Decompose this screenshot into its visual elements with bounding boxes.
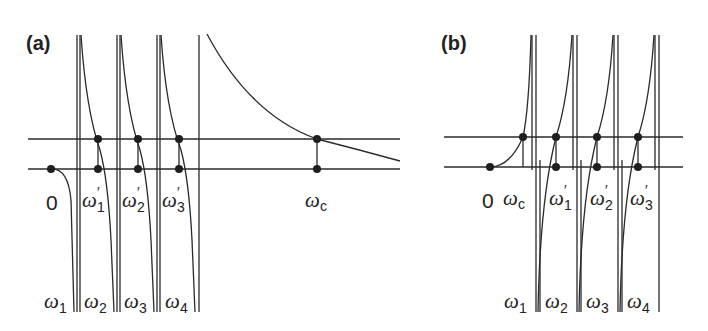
- dispersion-curves: [51, 34, 400, 312]
- svg-text:1: 1: [519, 300, 527, 316]
- pole-label-4: ω4: [165, 289, 188, 316]
- svg-text:ω: ω: [84, 289, 99, 313]
- intersection-label-2: ω′2: [590, 182, 613, 213]
- panel-b-label: (b): [441, 32, 467, 54]
- dispersion-curves: [490, 35, 654, 312]
- svg-text:c: c: [320, 198, 327, 214]
- svg-text:4: 4: [642, 300, 650, 316]
- intersection-label-3: ω′3: [162, 184, 185, 215]
- diagram-canvas: (a): [0, 0, 708, 331]
- svg-text:1: 1: [97, 199, 105, 215]
- pole-label-4: ω4: [627, 289, 650, 316]
- asymptote-lines: [532, 35, 659, 312]
- svg-text:1: 1: [59, 300, 67, 316]
- svg-text:c: c: [518, 196, 525, 212]
- svg-text:4: 4: [180, 300, 188, 316]
- svg-text:3: 3: [139, 300, 147, 316]
- intersection-label-c: ωc: [305, 188, 327, 214]
- svg-text:ω: ω: [122, 188, 137, 212]
- origin-label: 0: [482, 189, 494, 212]
- panel-a-label: (a): [26, 32, 50, 54]
- svg-text:3: 3: [645, 197, 653, 213]
- pole-label-2: ω2: [84, 289, 107, 316]
- svg-text:1: 1: [564, 197, 572, 213]
- intersection-label-c: ωc: [503, 186, 525, 212]
- svg-text:′: ′: [564, 182, 567, 198]
- pole-label-1: ω1: [504, 289, 527, 316]
- pole-label-3: ω3: [124, 289, 147, 316]
- svg-text:ω: ω: [162, 188, 177, 212]
- svg-text:ω: ω: [627, 289, 642, 313]
- svg-text:3: 3: [177, 199, 185, 215]
- svg-text:ω: ω: [305, 188, 320, 212]
- svg-text:ω: ω: [504, 289, 519, 313]
- svg-text:′: ′: [97, 184, 100, 200]
- svg-text:ω: ω: [630, 186, 645, 210]
- intersection-label-2: ω′2: [122, 184, 145, 215]
- svg-text:3: 3: [601, 300, 609, 316]
- svg-text:ω: ω: [549, 186, 564, 210]
- svg-text:ω: ω: [124, 289, 139, 313]
- panel-a: (a): [26, 32, 400, 316]
- intersection-label-1: ω′1: [82, 184, 105, 215]
- origin-label: 0: [46, 191, 58, 214]
- pole-label-2: ω2: [545, 289, 568, 316]
- svg-text:ω: ω: [44, 289, 59, 313]
- svg-text:ω: ω: [165, 289, 180, 313]
- panel-b: (b): [441, 32, 683, 316]
- svg-text:ω: ω: [503, 186, 518, 210]
- svg-text:2: 2: [560, 300, 568, 316]
- svg-text:ω: ω: [82, 188, 97, 212]
- svg-text:2: 2: [99, 300, 107, 316]
- pole-label-1: ω1: [44, 289, 67, 316]
- svg-text:2: 2: [137, 199, 145, 215]
- asymptote-lines: [77, 35, 199, 312]
- svg-text:2: 2: [605, 197, 613, 213]
- svg-text:′: ′: [645, 182, 648, 198]
- svg-text:ω: ω: [590, 186, 605, 210]
- svg-text:ω: ω: [545, 289, 560, 313]
- intersection-label-3: ω′3: [630, 182, 653, 213]
- pole-label-3: ω3: [586, 289, 609, 316]
- svg-text:′: ′: [137, 184, 140, 200]
- svg-text:ω: ω: [586, 289, 601, 313]
- intersection-label-1: ω′1: [549, 182, 572, 213]
- intersection-dots: [47, 135, 321, 173]
- svg-text:′: ′: [605, 182, 608, 198]
- svg-text:′: ′: [177, 184, 180, 200]
